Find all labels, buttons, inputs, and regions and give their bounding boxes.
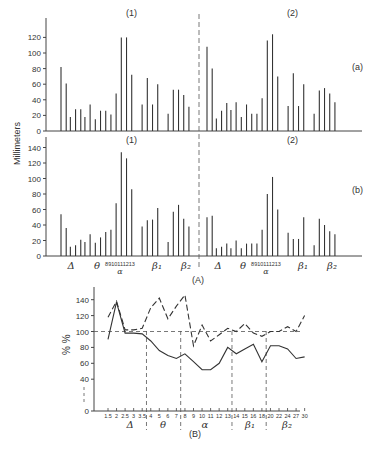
y-tick-label: 60 [32, 80, 41, 89]
band-label: β₁ [244, 419, 255, 430]
x-tick-label: 9 [192, 413, 195, 419]
y-tick-label: 80 [32, 190, 41, 199]
band-label: Δ [213, 260, 221, 271]
y-tick-label: 140 [28, 144, 42, 153]
x-tick-label: 30 [302, 413, 308, 419]
band-label: α [117, 267, 123, 276]
x-tick-label: 27 [293, 413, 299, 419]
x-tick-label: 12 [216, 413, 222, 419]
panel-a-axes [46, 18, 362, 256]
y-tick-label: 20 [32, 237, 41, 246]
figure: 020406080100120 020406080100120140 Δθ891… [0, 0, 376, 451]
y-tick-label: 20 [32, 111, 41, 120]
solid-series-line [108, 302, 305, 370]
x-tick-label: 1.5 [104, 413, 112, 419]
band-label: β₂ [281, 419, 292, 430]
y-tick-label: 80 [32, 65, 41, 74]
y-tick-label: 100 [28, 49, 42, 58]
x-tick-label: 4 [149, 413, 152, 419]
y-axis-ticks-b: 020406080100120140 [28, 144, 46, 262]
y-axis-ticks-B: 0406080100120140 [76, 296, 94, 416]
x-tick-label: 6 [166, 413, 169, 419]
bars-row-b [61, 152, 335, 256]
band-label: θ [240, 260, 246, 271]
band-label: β₂ [326, 260, 337, 271]
x-tick-label: 11 [208, 413, 214, 419]
panel-label-a: (A) [192, 275, 204, 285]
bars-row-a [61, 34, 335, 131]
y-tick-label: 100 [28, 175, 42, 184]
band-label: β₂ [180, 260, 191, 271]
y-axis-label-millimeters: Millimeters [12, 121, 22, 165]
y-tick-label: 100 [76, 328, 90, 337]
y-tick-label: 120 [76, 312, 90, 321]
x-tick-label: 2 [115, 413, 118, 419]
y-tick-label: 120 [28, 159, 42, 168]
x-tick-label: 14 [233, 413, 239, 419]
y-tick-label: 40 [80, 375, 89, 384]
x-band-labels-a: Δθ8910111213αβ₁β₂Δθ8910111213αβ₁β₂ [66, 260, 337, 276]
group-label-b1: (1) [126, 135, 137, 145]
group-label-a2: (2) [287, 8, 298, 18]
band-label: α [202, 419, 209, 430]
group-label-a1: (1) [126, 8, 137, 18]
y-tick-label: 140 [76, 296, 90, 305]
x-tick-label: 13 [225, 413, 231, 419]
band-label: β₁ [297, 260, 308, 271]
y-tick-label: 80 [80, 343, 89, 352]
band-label: α [263, 267, 269, 276]
y-tick-label: 0 [37, 252, 42, 261]
x-tick-label: 20 [267, 413, 273, 419]
y-tick-label: 120 [28, 33, 42, 42]
y-tick-label: 40 [32, 221, 41, 230]
x-tick-label: 18 [259, 413, 265, 419]
line-series-B [94, 295, 305, 430]
y-tick-label: 0 [85, 407, 90, 416]
y-tick-label: 60 [80, 359, 89, 368]
x-tick-label: 7 [175, 413, 178, 419]
y-axis-label-percent: % % [61, 334, 72, 355]
y-tick-label: 0 [37, 127, 42, 136]
x-tick-label: 3.5 [138, 413, 146, 419]
y-axis-ticks-a: 020406080100120 [28, 33, 46, 136]
band-label: β₁ [151, 260, 162, 271]
y-tick-label: 40 [32, 96, 41, 105]
row-label-a: (a) [352, 62, 363, 72]
panel-label-b: (B) [189, 429, 201, 439]
band-label: θ [160, 419, 166, 430]
group-label-b2: (2) [287, 135, 298, 145]
dashed-series-line [108, 295, 305, 346]
band-label: Δ [66, 260, 74, 271]
row-label-b: (b) [352, 185, 363, 195]
y-tick-label: 60 [32, 206, 41, 215]
x-tick-label: 8 [183, 413, 186, 419]
band-label: Δ [125, 419, 133, 430]
band-label: θ [94, 260, 100, 271]
